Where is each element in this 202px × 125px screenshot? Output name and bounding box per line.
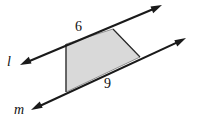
- line-m-arrow-left-icon: [31, 101, 43, 110]
- side-length-label-top: 6: [75, 20, 82, 34]
- figure-canvas: [0, 0, 202, 125]
- shaded-trapezoid: [66, 29, 140, 92]
- side-length-label-bottom: 9: [104, 77, 111, 91]
- line-l-arrow-right-icon: [151, 5, 163, 13]
- line-l-arrow-left-icon: [20, 57, 32, 65]
- line-label-m: m: [14, 103, 24, 117]
- line-m-arrow-right-icon: [174, 38, 186, 47]
- geometry-figure: l m 6 9: [0, 0, 202, 125]
- line-label-l: l: [7, 55, 11, 69]
